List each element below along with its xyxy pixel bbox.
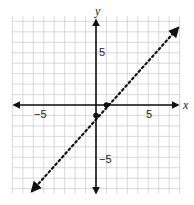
y-axis-label: y [94, 4, 101, 18]
x-tick-pos5: 5 [146, 108, 152, 120]
x-tick-neg5: −5 [34, 108, 47, 120]
coordinate-plane: x y −5 5 5 −5 [0, 0, 194, 205]
y-tick-pos5: 5 [99, 46, 105, 58]
x-axis-label: x [182, 98, 189, 112]
point-1-0 [104, 102, 110, 108]
y-tick-neg5: −5 [99, 153, 112, 165]
point-0-neg1 [93, 113, 99, 119]
